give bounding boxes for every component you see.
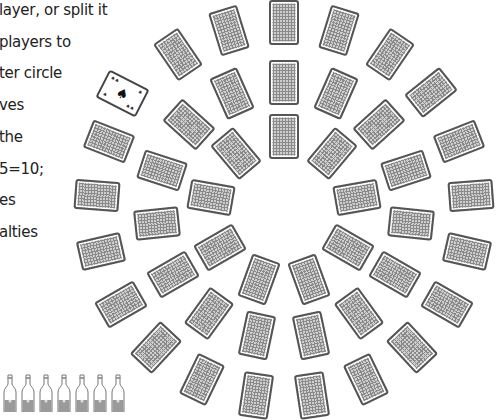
face-down-card[interactable] <box>153 28 203 82</box>
face-down-card[interactable] <box>238 371 274 420</box>
face-down-card[interactable] <box>334 287 385 341</box>
face-down-card[interactable] <box>136 149 188 191</box>
drink-bottles <box>3 374 125 412</box>
face-down-card[interactable] <box>130 321 183 374</box>
face-down-card[interactable] <box>294 371 330 420</box>
rule-line: alties <box>0 223 38 241</box>
corner-pip-icon: ♠♠ <box>110 75 120 84</box>
face-down-card[interactable] <box>404 67 458 119</box>
corner-pip-icon: ♠♠ <box>125 103 135 112</box>
beer-bottle-icon <box>39 374 53 412</box>
face-down-card[interactable] <box>291 310 330 360</box>
face-down-card[interactable] <box>321 223 375 271</box>
face-down-card[interactable] <box>186 178 236 215</box>
rule-line: es <box>0 191 15 209</box>
face-down-card[interactable] <box>352 98 406 150</box>
spade-icon: ♠ <box>114 84 132 102</box>
face-down-card[interactable] <box>133 206 181 241</box>
face-down-card[interactable] <box>342 353 389 407</box>
face-down-card[interactable] <box>380 149 432 191</box>
face-down-card[interactable] <box>448 179 495 212</box>
face-down-card[interactable] <box>269 0 299 45</box>
rule-line: 5=10; <box>0 160 44 178</box>
face-down-card[interactable] <box>269 60 299 105</box>
face-down-card[interactable] <box>73 179 120 212</box>
face-down-card[interactable] <box>183 287 234 341</box>
corner-pip-icon: ♠ <box>137 89 143 95</box>
face-down-card[interactable] <box>332 178 382 215</box>
face-down-card[interactable] <box>306 126 358 180</box>
rule-line: the <box>0 128 23 146</box>
rule-line: ves <box>0 96 24 114</box>
face-down-card[interactable] <box>387 206 435 241</box>
corner-pip-icon: ♠ <box>102 91 108 97</box>
beer-bottle-icon <box>75 374 89 412</box>
face-down-card[interactable] <box>179 353 226 407</box>
face-down-card[interactable] <box>208 4 250 56</box>
face-down-card[interactable] <box>94 280 148 328</box>
face-down-card[interactable] <box>146 250 200 298</box>
ace-of-spades-card[interactable]: ♠♠ ♠ ♠ ♠♠ ♠ <box>95 69 149 117</box>
face-down-card[interactable] <box>75 232 126 271</box>
rule-line: ter circle <box>0 64 62 82</box>
beer-bottle-icon <box>21 374 35 412</box>
face-down-card[interactable] <box>209 66 255 119</box>
face-down-card[interactable] <box>238 310 277 360</box>
face-down-card[interactable] <box>83 119 136 163</box>
beer-bottle-icon <box>111 374 125 412</box>
face-down-card[interactable] <box>193 223 247 271</box>
face-down-card[interactable] <box>420 280 474 328</box>
face-down-card[interactable] <box>318 4 360 56</box>
face-down-card[interactable] <box>210 126 262 180</box>
rule-line: layer, or split it <box>0 1 107 19</box>
rule-line: players to <box>0 33 71 51</box>
face-down-card[interactable] <box>162 98 216 150</box>
face-down-card[interactable] <box>288 253 332 306</box>
face-down-card[interactable] <box>433 119 486 163</box>
face-down-card[interactable] <box>237 253 281 306</box>
face-down-card[interactable] <box>269 114 299 159</box>
face-down-card[interactable] <box>442 232 493 271</box>
face-down-card[interactable] <box>386 321 439 374</box>
beer-bottle-icon <box>93 374 107 412</box>
beer-bottle-icon <box>3 374 17 412</box>
face-down-card[interactable] <box>313 66 359 119</box>
face-down-card[interactable] <box>368 250 422 298</box>
face-down-card[interactable] <box>365 28 415 82</box>
beer-bottle-icon <box>57 374 71 412</box>
